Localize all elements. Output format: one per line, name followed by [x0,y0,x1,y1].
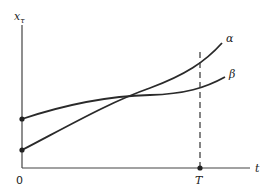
alpha-start-dot [19,147,24,152]
alpha-label: α [226,32,234,45]
T-label: T [195,174,204,187]
beta-label: β [228,68,235,81]
beta-start-dot [19,116,24,121]
diagram-canvas: xτ α β t 0 T [0,0,274,191]
T-dot [197,165,202,170]
origin-label: 0 [16,174,23,187]
x-axis-label: t [255,162,260,175]
y-axis-label: xτ [14,10,25,25]
